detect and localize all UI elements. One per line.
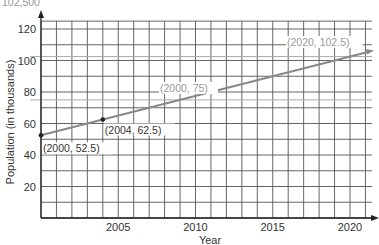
x-tick-label: 2005 (106, 221, 130, 233)
y-tick-label: 100 (18, 55, 36, 67)
line-arrow-icon (366, 49, 374, 55)
x-tick-label: 2020 (338, 221, 362, 233)
y-tick-label: 40 (24, 149, 36, 161)
y-tick-label: 20 (24, 181, 36, 193)
top-value-text: 102,500 (2, 0, 40, 8)
point-annotation: (2020, 102.5) (287, 36, 349, 48)
data-point (101, 117, 106, 122)
y-tick-label: 60 (24, 118, 36, 130)
point-annotation: (2004, 62.5) (105, 124, 162, 136)
y-axis-label: Population (in thousands) (4, 60, 16, 185)
x-tick-label: 2015 (261, 221, 285, 233)
y-tick-label: 120 (18, 23, 36, 35)
population-chart: 102,500204060801001202005201020152020Yea… (0, 0, 379, 245)
x-axis-arrow-icon (371, 215, 379, 221)
x-axis-label: Year (199, 234, 222, 245)
data-point (39, 133, 44, 138)
point-annotation: (2000, 75) (160, 82, 208, 94)
y-axis-arrow-icon (38, 10, 44, 18)
point-annotation: (2000, 52.5) (43, 142, 100, 154)
x-tick-label: 2010 (183, 221, 207, 233)
y-tick-label: 80 (24, 86, 36, 98)
